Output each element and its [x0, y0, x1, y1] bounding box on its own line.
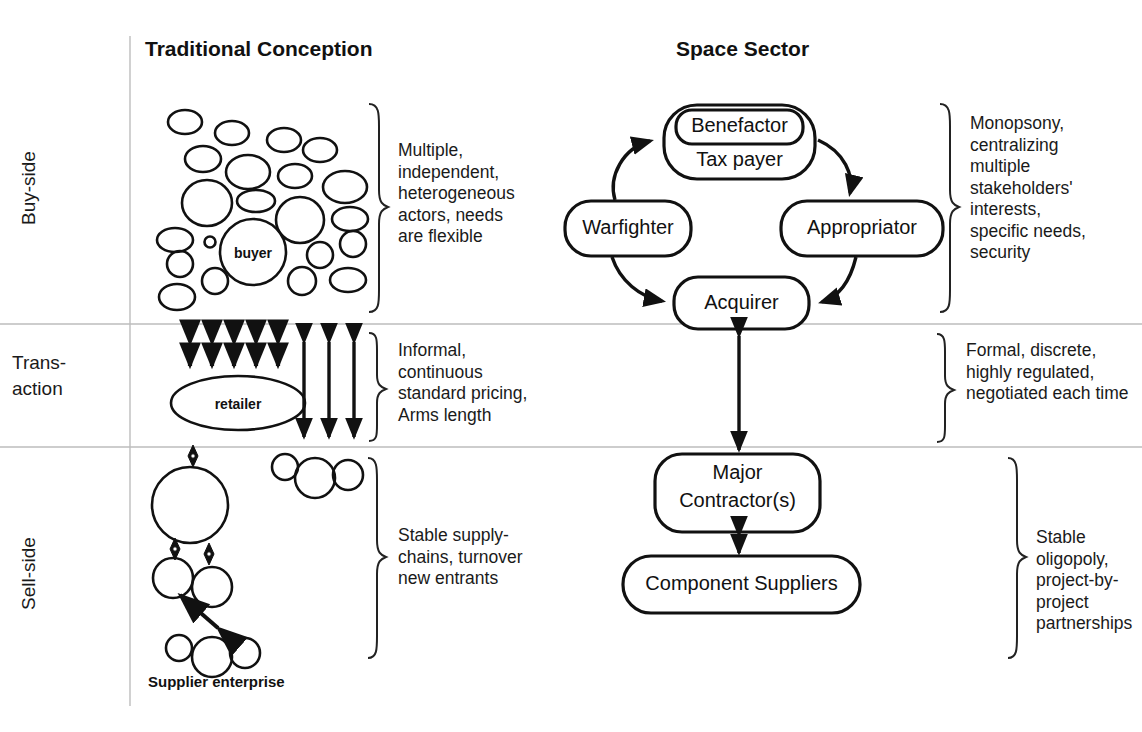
space-sector-nodes [565, 105, 943, 613]
supplier-enterprise-caption: Supplier enterprise [148, 673, 285, 690]
arrow-benefactor-to-appropriator [818, 140, 851, 193]
brace-right-sell [1008, 458, 1026, 658]
node-label-warfighter: Warfighter [565, 216, 691, 239]
node-label-acquirer: Acquirer [674, 291, 809, 314]
node-label-appropriator: Appropriator [781, 216, 943, 239]
brace-left-buy [369, 104, 388, 312]
brace-right-buy [940, 104, 959, 312]
title-traditional-conception: Traditional Conception [145, 37, 373, 61]
transaction-long-arrows [304, 342, 354, 437]
node-label-major-contractor-line2: Contractor(s) [655, 489, 820, 512]
brace-left-transaction [369, 333, 386, 441]
buyer-label: buyer [221, 245, 285, 261]
row-label-transaction-line2: action [12, 378, 63, 400]
supplier-exchange-arrow [180, 595, 218, 628]
row-label-buy-side: Buy-side [18, 151, 40, 225]
note-left-buy-side: Multiple, independent, heterogeneous act… [398, 140, 515, 248]
transaction-short-arrows [190, 343, 278, 366]
diagram-canvas: Traditional Conception Space Sector Buy-… [0, 0, 1142, 732]
note-right-sell-side: Stable oligopoly, project-by-project par… [1036, 527, 1142, 635]
node-label-benefactor: Benefactor [664, 114, 815, 137]
row-label-transaction-line1: Trans- [12, 352, 66, 374]
title-space-sector: Space Sector [676, 37, 809, 61]
retailer-label: retailer [206, 396, 270, 412]
row-label-sell-side: Sell-side [18, 537, 40, 610]
note-right-buy-side: Monopsony, centralizing multiple stakeho… [970, 113, 1086, 264]
brace-left-sell [368, 458, 386, 658]
note-left-transaction: Informal, continuous standard pricing, A… [398, 340, 527, 426]
node-label-major-contractor-line1: Major [655, 461, 820, 484]
note-right-transaction: Formal, discrete, highly regulated, nego… [966, 340, 1128, 405]
note-left-sell-side: Stable supply- chains, turnover new entr… [398, 525, 523, 590]
brace-right-transaction [937, 334, 954, 442]
supplier-bubble-cluster [152, 454, 363, 677]
buyer-bubble-cloud [157, 110, 368, 310]
supplier-link-diamonds [170, 445, 214, 565]
arrow-appropriator-to-acquirer [822, 257, 856, 302]
arrow-warfighter-to-acquirer [612, 257, 662, 301]
node-label-tax-payer: Tax payer [664, 148, 815, 171]
arrow-warfighter-to-benefactor [613, 141, 650, 200]
node-label-component-suppliers: Component Suppliers [623, 572, 860, 595]
